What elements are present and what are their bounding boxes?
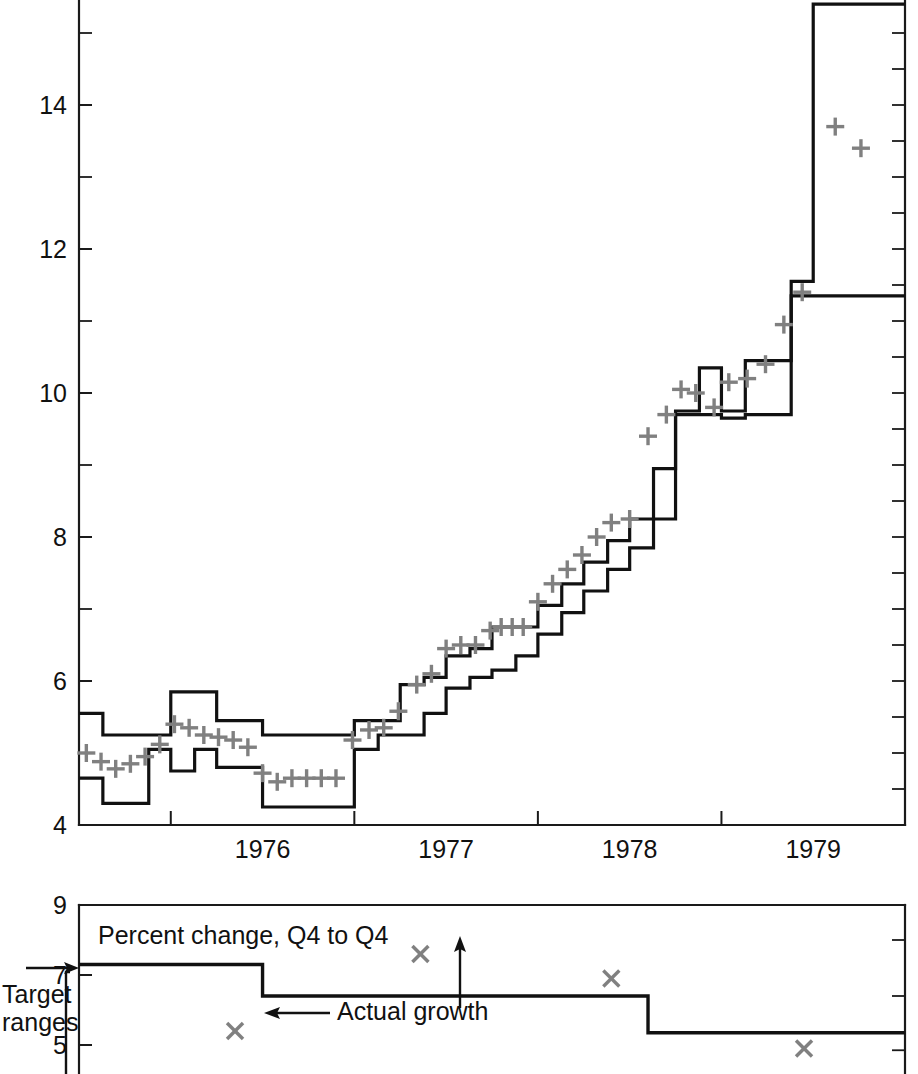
plus-marker	[268, 773, 286, 791]
plus-marker	[672, 380, 690, 398]
plus-marker	[793, 283, 811, 301]
main-panel-axes	[79, 0, 905, 825]
bottom-target-range-step	[79, 965, 905, 1033]
actual-money-growth-markers	[77, 118, 870, 791]
actual-growth-label: Actual growth	[337, 997, 488, 1025]
plus-marker	[826, 118, 844, 136]
plus-marker	[738, 370, 756, 388]
x-marker	[227, 1023, 243, 1039]
x-marker	[603, 971, 619, 987]
x-marker	[412, 946, 428, 962]
figure-container: 141210864 1976197719781979 975 Percent c…	[0, 0, 918, 1074]
percent-change-note: Percent change, Q4 to Q4	[98, 921, 389, 949]
main-x-tick-label: 1979	[785, 835, 841, 863]
plus-marker	[588, 528, 606, 546]
plus-marker	[639, 427, 657, 445]
main-panel-y-tick-labels: 141210864	[39, 91, 67, 839]
plus-marker	[210, 728, 228, 746]
x-marker	[796, 1041, 812, 1057]
bottom-y-tick-label: 9	[53, 891, 67, 919]
plus-marker	[514, 618, 532, 636]
chart-canvas: 141210864 1976197719781979 975 Percent c…	[0, 0, 918, 1074]
main-y-tick-label: 12	[39, 235, 67, 263]
main-y-tick-label: 8	[53, 523, 67, 551]
plus-marker	[360, 721, 378, 739]
main-panel-x-tick-labels: 1976197719781979	[235, 835, 841, 863]
target-ranges-label-line1: Target	[2, 980, 72, 1008]
main-y-tick-label: 4	[53, 811, 67, 839]
plus-marker	[756, 355, 774, 373]
plus-marker	[657, 406, 675, 424]
target-ranges-label-line2: ranges	[2, 1008, 78, 1036]
main-y-tick-label: 10	[39, 379, 67, 407]
upper-band-step-path	[79, 4, 905, 735]
bottom-panel-target-range-line	[79, 965, 905, 1033]
plus-marker	[621, 510, 639, 528]
plus-marker	[165, 715, 183, 733]
plus-marker	[544, 575, 562, 593]
main-y-tick-label: 14	[39, 91, 67, 119]
plus-marker	[481, 622, 499, 640]
main-y-tick-label: 6	[53, 667, 67, 695]
plus-marker	[852, 139, 870, 157]
target-range-upper-bound-line	[79, 4, 905, 735]
plus-marker	[327, 769, 345, 787]
plus-marker	[389, 702, 407, 720]
plus-marker	[529, 593, 547, 611]
main-panel-x-ticks	[171, 811, 722, 825]
bottom-panel: 975	[26, 891, 905, 1074]
bottom-panel-actual-growth-markers	[227, 946, 812, 1057]
main-panel: 141210864 1976197719781979	[39, 0, 905, 863]
plus-marker	[602, 514, 620, 532]
plus-marker	[687, 384, 705, 402]
main-x-tick-label: 1976	[235, 835, 291, 863]
main-x-tick-label: 1978	[602, 835, 658, 863]
main-x-tick-label: 1977	[418, 835, 474, 863]
plus-marker	[558, 560, 576, 578]
